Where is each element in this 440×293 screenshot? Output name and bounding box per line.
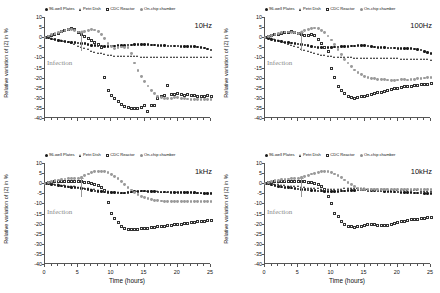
legend-item-tri: Petri Dish xyxy=(79,7,100,11)
data-point xyxy=(90,188,92,190)
x-tick-mark xyxy=(291,264,292,266)
legend-item-circ: 96-well Plates xyxy=(265,7,295,11)
y-tick-label: -10 xyxy=(240,200,262,206)
data-point xyxy=(177,45,180,48)
data-point xyxy=(307,189,310,192)
data-point xyxy=(133,43,136,46)
x-tick-mark xyxy=(264,118,265,121)
data-point xyxy=(160,191,162,193)
x-tick-mark xyxy=(370,118,371,120)
data-point xyxy=(113,47,116,50)
data-point xyxy=(140,56,142,58)
data-point xyxy=(103,45,106,48)
data-point xyxy=(393,57,395,59)
x-tick-label: 20 xyxy=(174,269,180,275)
y-tick-label: 5 xyxy=(240,170,262,176)
data-point xyxy=(186,56,188,58)
data-point xyxy=(320,42,323,45)
x-tick-mark xyxy=(430,118,431,121)
y-tick-label: -5 xyxy=(20,44,42,50)
legend-item-circ: 96-well Plates xyxy=(45,7,75,11)
data-point xyxy=(373,57,375,59)
x-tick-mark xyxy=(410,118,411,120)
data-point xyxy=(357,44,360,47)
data-point xyxy=(127,55,129,57)
data-point xyxy=(127,46,130,49)
data-point xyxy=(370,57,372,59)
data-point xyxy=(200,192,202,194)
data-point xyxy=(180,45,183,48)
data-point xyxy=(150,44,153,47)
data-point xyxy=(327,55,329,57)
data-point xyxy=(153,190,155,192)
data-point xyxy=(430,216,433,219)
data-point xyxy=(426,192,429,195)
x-axis-ticks xyxy=(264,118,431,144)
x-tick-mark xyxy=(90,118,91,120)
data-point xyxy=(60,30,63,33)
legend-item-gcirc: On-chip chamber xyxy=(360,153,396,157)
data-point xyxy=(323,31,326,34)
legend-marker-icon xyxy=(140,8,143,11)
data-point xyxy=(77,45,79,47)
data-point xyxy=(123,55,125,57)
data-point xyxy=(343,179,346,182)
y-axis-ticks: 1050-5-10-15-20-25-30-35-40 xyxy=(238,163,262,264)
data-point xyxy=(170,45,173,48)
data-point xyxy=(340,45,343,48)
data-point xyxy=(370,45,373,48)
data-point xyxy=(337,85,340,88)
data-point xyxy=(113,191,115,193)
data-point xyxy=(176,96,179,99)
data-point xyxy=(314,189,317,192)
data-point xyxy=(183,191,185,193)
data-point xyxy=(84,42,87,45)
data-point xyxy=(353,69,356,72)
data-point xyxy=(297,46,299,48)
data-point xyxy=(113,55,115,57)
data-point xyxy=(406,58,408,60)
data-point xyxy=(166,56,168,58)
y-tick-label: -25 xyxy=(20,85,42,91)
panel-10khz: 96-well PlatesPetri DishCDC ReactorOn-ch… xyxy=(220,146,440,293)
data-point xyxy=(170,191,172,193)
data-point xyxy=(330,202,333,205)
x-tick-mark xyxy=(397,118,398,121)
x-tick-mark xyxy=(164,264,165,266)
data-point xyxy=(196,200,199,203)
data-point xyxy=(413,58,415,60)
x-tick-mark xyxy=(177,264,178,267)
data-point xyxy=(410,47,413,50)
x-tick-label: 0 xyxy=(43,269,46,275)
data-point xyxy=(430,188,433,191)
x-tick-mark xyxy=(297,118,298,121)
legend-item-gcirc: On-chip chamber xyxy=(360,7,396,11)
legend-label: 96-well Plates xyxy=(269,153,294,157)
data-point xyxy=(356,57,358,59)
data-point xyxy=(200,46,203,49)
x-tick-mark xyxy=(370,264,371,266)
data-point xyxy=(143,80,146,83)
x-tick-mark xyxy=(197,118,198,120)
data-point xyxy=(307,187,309,189)
y-tick-label: -30 xyxy=(20,95,42,101)
data-point xyxy=(127,186,130,189)
data-point xyxy=(206,200,209,203)
legend-marker-icon xyxy=(106,8,109,11)
x-tick-mark xyxy=(64,118,65,120)
x-tick-mark xyxy=(71,264,72,266)
data-point xyxy=(297,188,300,191)
data-point xyxy=(103,170,106,173)
data-point xyxy=(386,57,388,59)
legend-marker-icon xyxy=(326,154,329,157)
data-point xyxy=(120,55,122,57)
data-point xyxy=(133,55,135,57)
y-tick-label: 5 xyxy=(20,24,42,30)
x-tick-mark xyxy=(197,264,198,266)
data-point xyxy=(120,192,122,194)
data-point xyxy=(83,174,86,177)
data-point xyxy=(110,54,112,56)
data-point xyxy=(373,46,376,49)
x-tick-mark xyxy=(344,264,345,266)
data-point xyxy=(340,190,343,193)
